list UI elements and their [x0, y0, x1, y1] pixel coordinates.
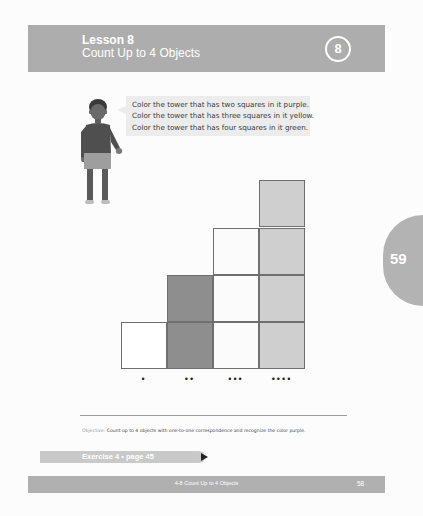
arrow-right-icon	[201, 453, 208, 461]
instruction-line-yellow: Color the tower that has three squares i…	[132, 110, 310, 121]
page-footer: 4-8 Count Up to 4 Objects 58	[28, 476, 385, 493]
tower-2-square-1[interactable]	[167, 322, 213, 369]
instruction-line-purple: Color the tower that has two squares in …	[132, 99, 310, 110]
instruction-speech-bubble: Color the tower that has two squares in …	[126, 96, 310, 136]
tower-1-dots: •	[121, 375, 167, 384]
speech-bubble-tail	[117, 106, 126, 114]
tower-4-square-3[interactable]	[259, 228, 305, 275]
tower-3-square-1[interactable]	[213, 322, 259, 369]
lesson-number-badge: 8	[325, 36, 351, 62]
side-page-number: 59	[390, 250, 407, 267]
footer-page-number: 58	[357, 480, 364, 487]
side-page-tab: 59	[383, 215, 423, 306]
footer-title: 4-8 Count Up to 4 Objects	[28, 480, 385, 486]
objective-body: Count up to 4 objects with one-to-one co…	[107, 428, 306, 433]
exercise-banner[interactable]: Exercise 4 • page 45	[40, 451, 205, 463]
exercise-label: Exercise 4 • page 45	[82, 452, 154, 462]
tower-4-square-4[interactable]	[259, 180, 305, 227]
tower-1-square-1[interactable]	[121, 322, 167, 369]
tower-3-square-3[interactable]	[213, 228, 259, 275]
lesson-header: Lesson 8 Count Up to 4 Objects 8	[28, 25, 385, 72]
tower-4-square-2[interactable]	[259, 275, 305, 322]
objective-label: Objective:	[82, 428, 105, 433]
tower-4-dots: ••••	[259, 375, 305, 384]
instruction-line-green: Color the tower that has four squares in…	[132, 122, 310, 133]
tower-4-square-1[interactable]	[259, 322, 305, 369]
tower-2-square-2[interactable]	[167, 275, 213, 322]
tower-2-dots: ••	[167, 375, 213, 384]
tower-3-dots: •••	[213, 375, 259, 384]
tower-3-square-2[interactable]	[213, 275, 259, 322]
objective-text: Objective: Count up to 4 objects with on…	[82, 428, 306, 433]
section-divider	[80, 415, 347, 416]
lesson-title: Count Up to 4 Objects	[82, 47, 200, 60]
